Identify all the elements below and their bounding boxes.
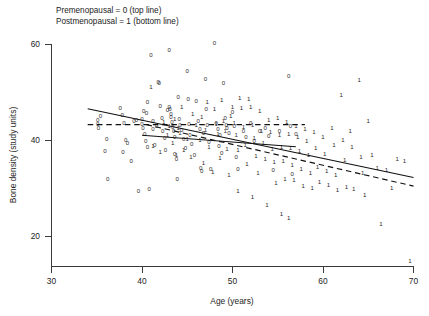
data-point-marker: 0 [176, 175, 180, 182]
legend-line-postmenopausal: Postmenopausal = 1 (bottom line) [56, 17, 179, 26]
data-point-marker: 0 [289, 122, 293, 129]
data-point-marker: 1 [236, 187, 240, 194]
data-point-marker: 1 [312, 128, 316, 135]
data-point-marker: 1 [325, 167, 329, 174]
data-point-marker: 0 [205, 105, 209, 112]
data-point-marker: 1 [348, 127, 352, 134]
data-point-marker: 0 [167, 46, 171, 53]
data-point-marker: 0 [234, 153, 238, 160]
x-tick-label-70: 70 [409, 276, 419, 286]
data-point-marker: 1 [301, 182, 305, 189]
data-point-marker: 1 [258, 107, 262, 114]
data-point-marker: 1 [202, 159, 206, 166]
data-point-marker: 1 [289, 144, 293, 151]
x-tick-label-60: 60 [318, 276, 328, 286]
bone-density-scatter-plot: Premenopausal = 0 (top line) Postmenopau… [0, 0, 429, 316]
data-point-marker: 1 [213, 105, 217, 112]
data-point-marker: 1 [236, 146, 240, 153]
data-point-marker: 0 [200, 167, 204, 174]
data-point-marker: 1 [334, 171, 338, 178]
data-point-marker: 1 [281, 157, 285, 164]
y-axis-title: Bone density (study units) [8, 107, 18, 204]
x-axis-title: Age (years) [210, 296, 253, 306]
data-point-marker: 1 [280, 210, 284, 217]
data-point-marker: 1 [233, 119, 237, 126]
data-point-marker: 1 [379, 220, 383, 227]
data-point-marker: 1 [267, 116, 271, 123]
legend-line-premenopausal: Premenopausal = 0 (top line) [56, 6, 162, 15]
data-point-marker: 1 [358, 76, 362, 83]
data-point-marker: 1 [245, 160, 249, 167]
data-point-marker: 0 [236, 165, 240, 172]
data-point-marker: 1 [178, 129, 182, 136]
data-point-marker: 1 [200, 113, 204, 120]
data-point-marker: 1 [234, 131, 238, 138]
data-point-marker: 0 [120, 111, 124, 118]
data-point-marker: 1 [336, 186, 340, 193]
data-point-marker: 0 [187, 120, 191, 127]
data-point-marker: 0 [177, 93, 181, 100]
data-point-marker: 1 [323, 150, 327, 157]
y-tick-label-40: 40 [31, 135, 41, 145]
data-point-marker: 1 [191, 110, 195, 117]
x-tick-label-40: 40 [137, 276, 147, 286]
data-point-marker: 1 [303, 125, 307, 132]
data-point-marker: 1 [292, 176, 296, 183]
data-point-marker: 1 [291, 161, 295, 168]
data-point-marker: 0 [99, 112, 103, 119]
data-point-marker: 1 [269, 128, 273, 135]
data-point-marker: 0 [222, 79, 226, 86]
data-point-marker: 1 [327, 181, 331, 188]
data-point-marker: 0 [146, 143, 150, 150]
x-tick-label-50: 50 [228, 276, 238, 286]
y-tick-label-60: 60 [31, 39, 41, 49]
data-point-marker: 0 [272, 166, 276, 173]
data-point-marker: 1 [278, 131, 282, 138]
plot-background [0, 0, 429, 316]
data-point-marker: 1 [359, 153, 363, 160]
data-point-marker: 1 [256, 169, 260, 176]
data-point-marker: 1 [403, 157, 407, 164]
data-point-marker: 1 [370, 151, 374, 158]
data-point-marker: 0 [161, 127, 165, 134]
data-point-marker: 1 [247, 95, 251, 102]
data-point-marker: 1 [211, 168, 215, 175]
data-point-marker: 1 [314, 144, 318, 151]
data-point-marker: 1 [222, 117, 226, 124]
data-point-marker: 1 [224, 127, 228, 134]
figure-canvas: Premenopausal = 0 (top line) Postmenopau… [0, 0, 429, 316]
data-point-marker: 0 [146, 98, 150, 105]
data-point-marker: 0 [213, 39, 217, 46]
x-tick-label-30: 30 [47, 276, 57, 286]
y-tick-label-20: 20 [31, 231, 41, 241]
data-point-marker: 1 [189, 153, 193, 160]
